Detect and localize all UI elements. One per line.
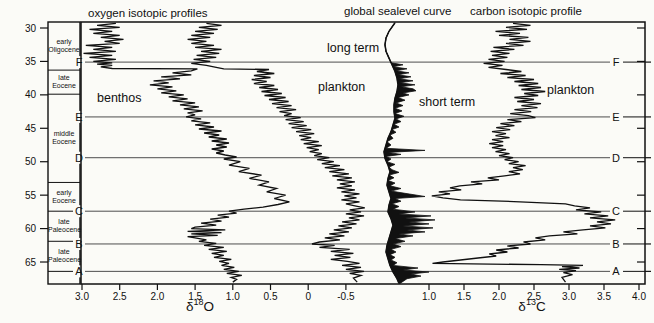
carbon-axis-tick-label: 3.5 (597, 291, 611, 302)
time-tick-label: 30 (25, 23, 37, 34)
oxygen-axis-tick-label: 0.5 (264, 291, 278, 302)
curve-label-plankton-carbon: plankton (547, 83, 594, 97)
horizon-letter-right-F: F (613, 56, 620, 68)
horizon-letter-right-E: E (612, 111, 619, 123)
oxygen-axis-tick-label: 2.5 (113, 291, 127, 302)
epoch-label-line: middle (48, 130, 80, 138)
oxygen-axis-tick-label: 3.0 (75, 291, 89, 302)
carbon-axis-tick-label: 1.5 (457, 291, 471, 302)
time-tick-label: 65 (25, 257, 37, 268)
epoch-label-line: Paleocene (48, 226, 80, 234)
horizon-letter-left-C: C (75, 205, 83, 217)
epoch-label-line: late (48, 218, 80, 226)
isotope-sealevel-figure: 3035404550556065FFEEDDCCBBAA3.02.52.01.5… (0, 0, 654, 323)
curve-label-plankton-oxygen: plankton (318, 80, 365, 94)
horizon-letter-right-B: B (612, 238, 619, 250)
horizon-letter-left-A: A (75, 265, 83, 277)
time-tick-label: 50 (25, 156, 37, 167)
oxygen-axis-tick-label: 0 (305, 291, 311, 302)
horizon-letter-left-D: D (75, 152, 83, 164)
epoch-label-middle-eocene: middleEocene (48, 130, 80, 146)
epoch-label-early-eocene: earlyEocene (48, 189, 80, 205)
panel-title-oxygen: oxygen isotopic profiles (88, 7, 208, 19)
time-tick-label: 45 (25, 123, 37, 134)
epoch-label-late-paleocene: latePaleocene (48, 218, 80, 234)
epoch-label-line: Eocene (48, 82, 80, 90)
curve-label-long-term: long term (327, 41, 379, 55)
carbon-axis-tick-label: 3.0 (562, 291, 576, 302)
epoch-label-late-paleocene: latePaleocene (48, 248, 80, 264)
horizon-letter-right-C: C (612, 205, 620, 217)
epoch-label-early-oligocene: earlyOligocene (48, 38, 80, 54)
time-tick-label: 40 (25, 89, 37, 100)
epoch-label-line: early (48, 189, 80, 197)
curve-label-benthos: benthos (97, 91, 141, 105)
plot-frame (81, 22, 645, 284)
horizon-letter-right-A: A (612, 265, 620, 277)
axis-label-delta18o: δ18O (168, 297, 232, 314)
epoch-label-line: late (48, 248, 80, 256)
epoch-label-line: early (48, 38, 80, 46)
axis-label-delta13c: δ13C (500, 297, 564, 314)
panel-title-carbon: carbon isotopic profile (470, 5, 582, 17)
horizon-letter-right-D: D (612, 152, 620, 164)
panel-title-sealevel: global sealevel curve (344, 5, 451, 17)
curve-label-short-term: short term (419, 95, 475, 109)
epoch-label-line: Paleocene (48, 256, 80, 264)
oxygen-axis-tick-label: -0.5 (337, 291, 355, 302)
time-tick-label: 55 (25, 190, 37, 201)
epoch-label-line: Oligocene (48, 46, 80, 54)
time-tick-label: 35 (25, 56, 37, 67)
epoch-label-line: Eocene (48, 197, 80, 205)
oxygen-axis-tick-label: 2.0 (150, 291, 164, 302)
epoch-label-line: late (48, 74, 80, 82)
carbon-axis-tick-label: 4.0 (632, 291, 646, 302)
time-tick-label: 60 (25, 223, 37, 234)
epoch-label-late-eocene: lateEocene (48, 74, 80, 90)
carbon-axis-tick-label: 1.0 (422, 291, 436, 302)
epoch-label-line: Eocene (48, 138, 80, 146)
